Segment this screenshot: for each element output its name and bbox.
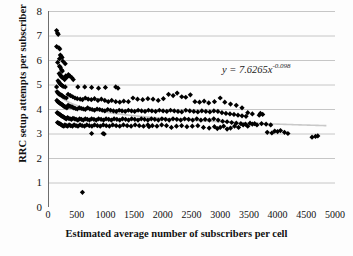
- data-point-marker: [190, 124, 195, 129]
- data-point-marker: [137, 123, 142, 128]
- data-point-marker: [179, 123, 184, 128]
- data-point-marker: [239, 113, 244, 118]
- data-point-marker: [140, 97, 145, 102]
- data-point-marker: [121, 99, 126, 104]
- data-point-marker: [184, 124, 189, 129]
- data-point-marker: [117, 100, 122, 105]
- data-point-marker: [197, 100, 202, 105]
- data-point-marker: [179, 94, 184, 99]
- data-point-marker: [89, 85, 94, 90]
- y-tick-label-5: 5: [26, 79, 42, 90]
- data-point-marker: [175, 90, 180, 95]
- data-point-marker: [80, 190, 85, 195]
- data-point-marker: [188, 92, 193, 97]
- y-tick-label-1: 1: [26, 177, 42, 188]
- data-point-marker: [198, 117, 203, 122]
- data-point-marker: [218, 95, 223, 100]
- data-point-marker: [212, 99, 217, 104]
- data-point-marker: [229, 120, 234, 125]
- x-axis-title: Estimated average number of subscribers …: [0, 228, 353, 239]
- data-point-marker: [145, 96, 150, 101]
- data-point-marker: [264, 122, 269, 127]
- y-tick-label-3: 3: [26, 128, 42, 139]
- data-point-marker: [166, 92, 171, 97]
- data-point-marker: [169, 125, 174, 130]
- data-point-marker: [96, 86, 101, 91]
- data-point-marker: [156, 98, 161, 103]
- data-point-marker: [207, 126, 212, 131]
- data-point-marker: [223, 111, 228, 116]
- data-point-marker: [195, 109, 200, 114]
- y-tick-label-6: 6: [26, 55, 42, 66]
- plot-area: [48, 11, 335, 207]
- data-point-marker: [164, 123, 169, 128]
- equation-exponent: -0.098: [273, 62, 291, 70]
- data-point-marker: [113, 99, 118, 104]
- data-point-marker: [171, 93, 176, 98]
- y-tick-label-4: 4: [26, 104, 42, 115]
- y-tick-label-8: 8: [26, 6, 42, 17]
- data-point-marker: [195, 123, 200, 128]
- data-point-marker: [103, 85, 108, 90]
- data-point-marker: [190, 117, 195, 122]
- data-point-marker: [259, 121, 264, 126]
- data-point-marker: [222, 100, 227, 105]
- data-point-marker: [224, 119, 229, 124]
- scatter-series: [54, 28, 320, 195]
- data-point-marker: [178, 117, 183, 122]
- data-point-marker: [89, 131, 94, 136]
- scatter-chart: RRC setup attempts per subscriber 012345…: [0, 0, 353, 256]
- data-point-marker: [174, 124, 179, 129]
- data-point-marker: [161, 96, 166, 101]
- data-point-marker: [130, 95, 135, 100]
- data-point-marker: [135, 97, 140, 102]
- data-point-marker: [202, 99, 207, 104]
- data-point-marker: [201, 125, 206, 130]
- x-tick-label-5000: 5000: [315, 210, 353, 220]
- data-point-marker: [133, 122, 138, 127]
- data-point-marker: [235, 113, 240, 118]
- data-point-marker: [186, 117, 191, 122]
- data-point-marker: [129, 124, 134, 129]
- trendline-equation-annotation: y = 7.6265x-0.098: [222, 62, 291, 75]
- data-point-marker: [154, 124, 159, 129]
- data-point-marker: [174, 117, 179, 122]
- data-point-marker: [150, 97, 155, 102]
- data-point-marker: [183, 95, 188, 100]
- data-point-marker: [126, 99, 131, 104]
- data-point-marker: [227, 111, 232, 116]
- data-point-marker: [159, 122, 164, 127]
- data-point-marker: [234, 103, 239, 108]
- y-tick-label-7: 7: [26, 30, 42, 41]
- data-point-marker: [250, 111, 255, 116]
- data-point-marker: [206, 100, 211, 105]
- plot-canvas: [48, 11, 335, 207]
- data-point-marker: [207, 109, 212, 114]
- data-point-marker: [219, 110, 224, 115]
- equation-base: y = 7.6265x: [222, 64, 273, 75]
- data-point-marker: [220, 119, 225, 124]
- data-point-marker: [231, 112, 236, 117]
- data-point-marker: [192, 99, 197, 104]
- y-tick-label-2: 2: [26, 153, 42, 164]
- data-point-marker: [228, 102, 233, 107]
- data-point-marker: [141, 124, 146, 129]
